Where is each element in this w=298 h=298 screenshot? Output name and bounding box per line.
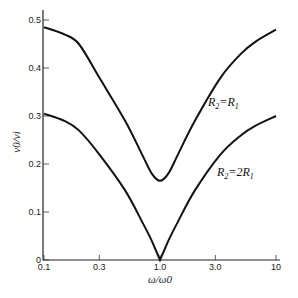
y-tick-label: 0.3 <box>28 111 41 121</box>
y-tick-label: 0.4 <box>28 63 41 73</box>
curves <box>44 27 276 260</box>
x-tick-label: 10 <box>271 262 281 272</box>
series-label-r2-eq-2r1: R2=2R1 <box>216 165 254 181</box>
y-ticks: 00.10.20.30.40.5 <box>28 15 49 265</box>
x-tick-label: 0.3 <box>93 262 106 272</box>
x-tick-label: 0.1 <box>38 262 51 272</box>
y-tick-label: 0.2 <box>28 159 41 169</box>
curve-r2-eq-2r1 <box>44 114 276 260</box>
chart: 00.10.20.30.40.5 0.10.31.03.010 ω/ω0 v0/… <box>0 0 298 298</box>
series-label-r2-eq-r1: R2=R1 <box>207 95 239 111</box>
x-tick-label: 1.0 <box>154 262 167 272</box>
x-tick-label: 3.0 <box>209 262 222 272</box>
x-axis-label: ω/ω0 <box>148 273 173 285</box>
y-tick-label: 0.1 <box>28 207 41 217</box>
y-axis-label: v0/vi <box>10 131 22 152</box>
y-tick-label: 0.5 <box>28 15 41 25</box>
curve-r2-eq-r1 <box>44 27 276 181</box>
